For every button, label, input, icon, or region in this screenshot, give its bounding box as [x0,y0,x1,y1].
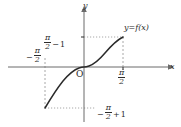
sign-minus: − [25,54,34,62]
math-figure-graph: y x O y=f(x) π 2 − 1 − π 2 π [0,0,181,127]
y-tick-label-lower: − π 2 + 1 [96,104,126,124]
origin-label: O [76,70,83,79]
fraction-denominator: 2 [105,113,112,121]
operand-one: 1 [60,41,65,49]
operand-one: 1 [121,111,126,119]
fraction-numerator: π [34,47,41,55]
x-tick-label-left: − π 2 [25,47,41,67]
sign-minus: − [96,111,105,119]
operator-plus: + [112,111,121,119]
y-tick-label-upper: π 2 − 1 [44,29,65,54]
fraction-group: − π 2 + 1 [96,106,126,124]
fraction-group: − π 2 [25,49,41,67]
fraction-numerator: π [44,34,51,42]
fraction-denominator: 2 [118,78,125,86]
fraction-numerator: π [118,69,125,77]
operator-minus: − [51,41,60,49]
fraction-pi-over-2: π 2 [118,69,125,87]
fraction-denominator: 2 [44,43,51,51]
fraction-pi-over-2: π 2 [44,34,51,52]
fraction-numerator: π [105,104,112,112]
fraction-pi-over-2: π 2 [34,47,41,65]
curve-function-label: y=f(x) [124,24,149,32]
x-tick-label-right: π 2 [118,71,125,89]
x-axis-label: x [170,63,175,71]
fraction-group: π 2 − 1 [44,36,65,54]
fraction-denominator: 2 [34,56,41,64]
fraction-pi-over-2: π 2 [105,104,112,122]
y-axis-label: y [83,2,88,10]
